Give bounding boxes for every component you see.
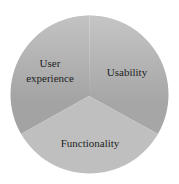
label-functionality: Functionality: [61, 137, 120, 149]
label-user-experience-line1: User: [40, 57, 61, 69]
pie-chart: User experience Usability Functionality: [0, 0, 179, 184]
label-user-experience-line2: experience: [26, 72, 74, 84]
pie-highlight: [11, 16, 169, 174]
label-usability: Usability: [107, 66, 148, 78]
